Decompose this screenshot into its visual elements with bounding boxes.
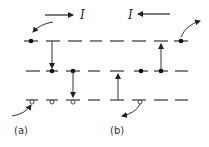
energy-level-diagram: I (a) I (b): [0, 0, 209, 147]
hole-exit-arrow-icon: [122, 104, 140, 116]
hole-circle: [30, 100, 34, 104]
energy-levels: [24, 41, 188, 100]
electron-dot: [159, 69, 164, 74]
hole-entry-arrow-icon: [12, 105, 31, 116]
hole-circle: [71, 100, 75, 104]
hole-circle: [138, 100, 142, 104]
current-label-b: I: [127, 8, 133, 22]
electron-dot: [179, 39, 184, 44]
panel-a: I (a): [12, 8, 85, 136]
panel-label-b: (b): [110, 125, 124, 136]
electron-dot: [29, 39, 34, 44]
hole-circle: [50, 100, 54, 104]
electron-dot: [139, 69, 144, 74]
electron-exit-arrow-icon: [181, 21, 200, 37]
current-label-a: I: [79, 8, 85, 22]
panel-label-a: (a): [14, 125, 28, 136]
electron-dot: [50, 69, 55, 74]
electron-entry-arrow-icon: [33, 22, 53, 32]
panel-b: I (b): [110, 8, 200, 136]
